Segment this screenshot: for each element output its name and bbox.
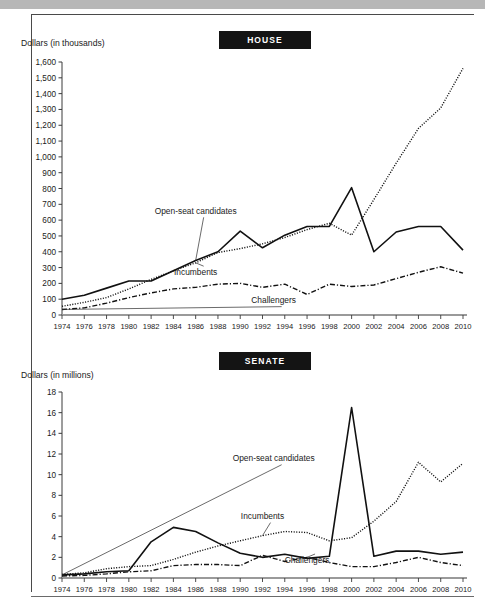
svg-text:1974: 1974	[54, 585, 71, 594]
series-line-challengers	[62, 555, 463, 576]
series-label-challengers: Challengers	[285, 555, 330, 565]
svg-text:2004: 2004	[388, 585, 405, 594]
series-line-open-seat-candidates	[62, 408, 463, 575]
svg-text:2: 2	[51, 553, 56, 562]
svg-text:1980: 1980	[120, 585, 137, 594]
svg-text:1978: 1978	[98, 585, 115, 594]
svg-text:10: 10	[47, 471, 57, 480]
svg-text:1994: 1994	[276, 585, 293, 594]
svg-text:1976: 1976	[76, 585, 93, 594]
svg-text:1982: 1982	[143, 585, 160, 594]
svg-text:0: 0	[51, 574, 56, 583]
svg-text:4: 4	[51, 533, 56, 542]
series-label-open-seat-candidates: Open-seat candidates	[233, 453, 315, 463]
svg-text:8: 8	[51, 491, 56, 500]
svg-text:1990: 1990	[232, 585, 249, 594]
svg-text:2006: 2006	[410, 585, 427, 594]
series-label-incumbents: Incumbents	[241, 511, 284, 521]
svg-text:1996: 1996	[299, 585, 316, 594]
svg-text:2000: 2000	[343, 585, 360, 594]
svg-text:14: 14	[47, 429, 57, 438]
svg-text:2008: 2008	[432, 585, 449, 594]
svg-text:1992: 1992	[254, 585, 271, 594]
senate-chart-svg: 0246810121416181974197619781980198219841…	[0, 0, 485, 604]
svg-text:18: 18	[47, 388, 57, 397]
svg-text:12: 12	[47, 450, 57, 459]
svg-text:1988: 1988	[209, 585, 226, 594]
svg-text:1998: 1998	[321, 585, 338, 594]
svg-text:1984: 1984	[165, 585, 182, 594]
svg-text:1986: 1986	[187, 585, 204, 594]
svg-text:6: 6	[51, 512, 56, 521]
figure-page: Dollars (in thousands) HOUSE 01002003004…	[0, 0, 485, 604]
svg-text:2010: 2010	[455, 585, 472, 594]
svg-text:16: 16	[47, 409, 57, 418]
svg-text:2002: 2002	[365, 585, 382, 594]
